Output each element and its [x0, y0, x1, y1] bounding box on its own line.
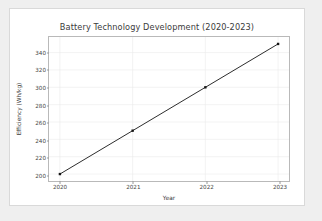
chart-card: Battery Technology Development (2020-202…: [9, 8, 305, 206]
y-axis-tick-label: 340: [35, 50, 46, 56]
x-axis-tick-mark: [60, 181, 61, 184]
plot-area: 200220240260280300320340 202020212022202…: [48, 36, 290, 182]
x-axis-tick-label: 2020: [53, 184, 67, 190]
y-axis-tick-mark: [47, 175, 50, 176]
y-axis-tick-mark: [47, 123, 50, 124]
y-axis-tick-label: 280: [35, 103, 46, 109]
x-axis-tick-label: 2022: [200, 184, 214, 190]
y-axis-tick-label: 300: [35, 85, 46, 91]
x-axis-tick-mark: [206, 181, 207, 184]
data-series-efficiency: [49, 37, 289, 181]
x-axis-label: Year: [48, 195, 290, 201]
y-axis-tick-mark: [47, 52, 50, 53]
y-axis-tick-label: 200: [35, 173, 46, 179]
x-axis-tick-label: 2021: [126, 184, 140, 190]
data-point-marker: [131, 130, 133, 132]
y-axis-tick-mark: [47, 140, 50, 141]
y-axis-label: Efficiency (Wh/kg): [16, 83, 22, 136]
data-point-marker: [277, 43, 279, 45]
y-axis-tick-label: 240: [35, 138, 46, 144]
y-axis-tick-label: 260: [35, 120, 46, 126]
x-axis-tick-mark: [133, 181, 134, 184]
y-axis-tick-mark: [47, 88, 50, 89]
y-axis-tick-mark: [47, 70, 50, 71]
x-axis-tick-label: 2023: [273, 184, 287, 190]
chart-figure: Battery Technology Development (2020-202…: [10, 9, 304, 205]
y-axis-tick-mark: [47, 105, 50, 106]
chart-title: Battery Technology Development (2020-202…: [10, 22, 304, 32]
data-point-marker: [204, 86, 206, 88]
data-point-marker: [59, 173, 61, 175]
x-axis-tick-mark: [280, 181, 281, 184]
y-axis-tick-label: 320: [35, 67, 46, 73]
y-axis-tick-label: 220: [35, 155, 46, 161]
y-axis-tick-mark: [47, 158, 50, 159]
page-background: Battery Technology Development (2020-202…: [0, 0, 322, 221]
